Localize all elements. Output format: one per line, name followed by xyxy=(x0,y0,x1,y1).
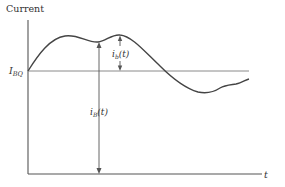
current-diagram: Current t IBQ iB(t) ib(t) xyxy=(0,0,285,187)
y-axis-label: Current xyxy=(6,3,44,14)
total-current-label: iB(t) xyxy=(90,107,108,118)
arrow-up-head xyxy=(118,36,122,42)
ac-current-label: ib(t) xyxy=(112,49,130,60)
arrow-up-head xyxy=(97,42,102,48)
x-axis-label: t xyxy=(264,169,268,180)
arrow-down-head xyxy=(118,66,122,72)
current-waveform xyxy=(28,35,249,93)
baseline-label: IBQ xyxy=(8,65,24,78)
arrow-down-head xyxy=(97,168,102,174)
